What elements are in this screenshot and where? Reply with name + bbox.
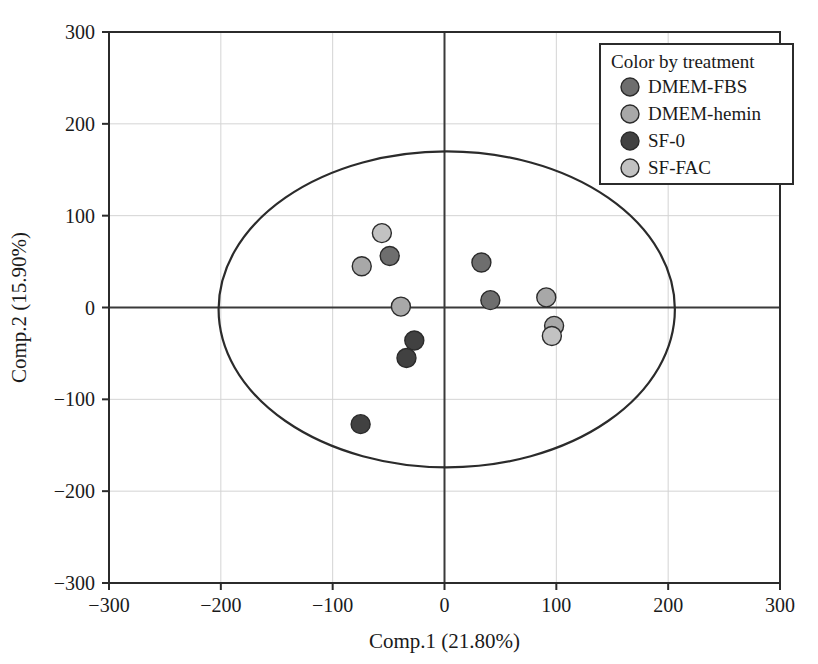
- data-point-sf-0: [397, 349, 416, 368]
- x-axis-title: Comp.1 (21.80%): [369, 629, 520, 653]
- legend-swatch-sf-0: [621, 132, 639, 150]
- x-tick-label: 200: [653, 594, 683, 616]
- legend-swatch-sf-fac: [621, 159, 639, 177]
- y-tick-label: −200: [54, 480, 95, 502]
- y-tick-label: −300: [54, 572, 95, 594]
- x-tick-label: 300: [765, 594, 795, 616]
- confidence-ellipse: [219, 151, 675, 467]
- legend-label-dmem-hemin: DMEM-hemin: [648, 103, 761, 124]
- data-point-sf-fac: [372, 224, 391, 243]
- x-tick-label: −100: [312, 594, 353, 616]
- data-point-dmem-fbs: [380, 247, 399, 266]
- y-tick-label: 0: [85, 297, 95, 319]
- data-point-sf-0: [405, 331, 424, 350]
- data-point-dmem-hemin: [391, 297, 410, 316]
- y-axis-title: Comp.2 (15.90%): [7, 232, 31, 383]
- data-point-sf-fac: [542, 326, 561, 345]
- legend-label-dmem-fbs: DMEM-FBS: [648, 76, 747, 97]
- legend: Color by treatmentDMEM-FBSDMEM-heminSF-0…: [600, 44, 793, 184]
- legend-label-sf-0: SF-0: [648, 130, 685, 151]
- x-tick-label: −300: [88, 594, 129, 616]
- scatter-plot: −300−200−1000100200300−300−200−100010020…: [0, 0, 818, 664]
- y-tick-label: −100: [54, 388, 95, 410]
- legend-swatch-dmem-fbs: [621, 78, 639, 96]
- x-tick-label: −200: [200, 594, 241, 616]
- chart-figure: −300−200−1000100200300−300−200−100010020…: [0, 0, 818, 664]
- legend-label-sf-fac: SF-FAC: [648, 157, 711, 178]
- data-points: [351, 224, 563, 434]
- data-point-dmem-fbs: [481, 291, 500, 310]
- data-point-dmem-hemin: [537, 288, 556, 307]
- x-tick-label: 0: [440, 594, 450, 616]
- y-tick-label: 100: [65, 205, 95, 227]
- legend-title: Color by treatment: [611, 51, 755, 72]
- y-tick-label: 200: [65, 113, 95, 135]
- y-tick-label: 300: [65, 21, 95, 43]
- legend-swatch-dmem-hemin: [621, 105, 639, 123]
- data-point-dmem-hemin: [352, 257, 371, 276]
- x-tick-label: 100: [541, 594, 571, 616]
- data-point-sf-0: [351, 415, 370, 434]
- data-point-dmem-fbs: [472, 253, 491, 272]
